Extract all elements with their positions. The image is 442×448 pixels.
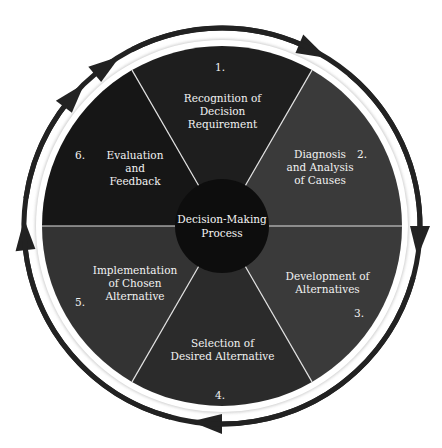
step-2-label: Diagnosis and Analysis of Causes: [285, 148, 355, 187]
step-5-label: Implementation of Chosen Alternative: [80, 264, 190, 303]
step-1-number: 1.: [215, 61, 225, 73]
step-3-label: Development of Alternatives: [270, 270, 385, 296]
step-5-number: 5.: [75, 296, 85, 308]
step-4-label: Selection of Desired Alternative: [160, 337, 285, 363]
step-4-number: 4.: [215, 389, 225, 401]
step-6-number: 6.: [75, 149, 85, 161]
step-2-number: 2.: [357, 148, 367, 160]
step-3-number: 3.: [354, 307, 364, 319]
step-1-label: Recognition of Decision Requirement: [165, 92, 280, 131]
center-label: Decision-Making Process: [172, 212, 272, 240]
step-6-label: Evaluation and Feedback: [95, 149, 175, 188]
